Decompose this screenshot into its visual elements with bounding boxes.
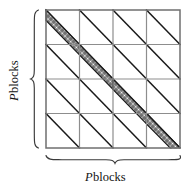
left-label-word: blocks <box>7 60 21 93</box>
left-axis-label: P blocks <box>7 60 21 102</box>
bottom-label-word: blocks <box>93 170 126 184</box>
left-label-symbol: P <box>7 93 21 102</box>
bottom-axis-label: P blocks <box>84 170 126 184</box>
block-matrix-diagram: P blocks P blocks <box>0 0 188 191</box>
overpaint-bottom <box>40 149 188 163</box>
figure-container: P blocks P blocks <box>0 0 188 191</box>
bottom-label-symbol: P <box>84 170 93 184</box>
left-brace <box>31 10 39 148</box>
overpaint-right <box>181 4 188 154</box>
